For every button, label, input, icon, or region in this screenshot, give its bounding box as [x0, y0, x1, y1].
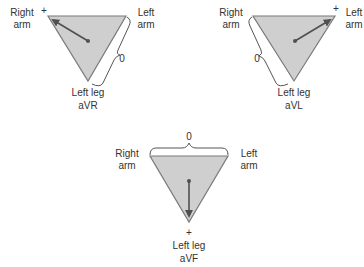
lead-label: aVL [285, 100, 303, 111]
plus-marker: + [186, 227, 192, 238]
plus-marker: + [41, 5, 47, 16]
lead-label: aVR [78, 100, 97, 111]
plus-marker: + [333, 3, 339, 14]
left-arm-label-line2: arm [137, 19, 154, 30]
left-arm-label-line1: Left [346, 7, 363, 18]
zero-marker: 0 [119, 53, 125, 64]
zero-marker: 0 [186, 131, 192, 142]
right-arm-label-line1: Right [219, 7, 243, 18]
right-arm-label-line2: arm [118, 160, 135, 171]
right-arm-label-line1: Right [115, 148, 139, 159]
left-arm-label-line1: Left [241, 148, 258, 159]
left-arm-label-line2: arm [240, 160, 257, 171]
right-arm-label-line2: arm [13, 19, 30, 30]
right-arm-label-line1: Right [10, 7, 34, 18]
left-arm-label-line2: arm [345, 19, 362, 30]
left-leg-label: Left leg [72, 87, 105, 98]
center-dot [293, 39, 297, 43]
panel-avl: + Right arm Left arm 0 Left leg aVL [219, 3, 362, 111]
panel-avr: + Right arm Left arm 0 Left leg aVR [10, 5, 154, 111]
center-dot [86, 39, 90, 43]
lead-label: aVF [180, 253, 198, 264]
left-arm-label-line1: Left [138, 7, 155, 18]
right-arm-label-line2: arm [222, 19, 239, 30]
augmented-leads-diagram: + Right arm Left arm 0 Left leg aVR + Ri… [0, 0, 364, 267]
zero-marker: 0 [254, 53, 260, 64]
center-dot [187, 179, 191, 183]
einthoven-triangle [48, 16, 126, 81]
left-leg-label: Left leg [278, 87, 311, 98]
zero-brace [150, 143, 228, 155]
einthoven-triangle [253, 16, 335, 81]
panel-avf: 0 Right arm Left arm + Left leg aVF [115, 131, 257, 264]
left-leg-label: Left leg [173, 240, 206, 251]
